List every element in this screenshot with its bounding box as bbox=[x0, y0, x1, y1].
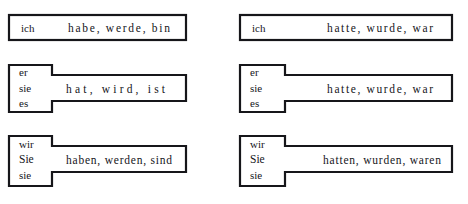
conjugation-box-left-row-1: ich habe, werde, bin bbox=[9, 15, 186, 40]
verbs-right-row-3: hatten, wurden, waren bbox=[323, 154, 441, 167]
pronoun-right-row-2-2: es bbox=[250, 97, 259, 109]
conjugation-diagram: ich habe, werde, bin er sie es hat, wird… bbox=[0, 0, 468, 204]
conjugation-box-right-row-3: wir Sie sie hatten, wurden, waren bbox=[240, 136, 452, 186]
conjugation-box-left-row-2: er sie es hat, wird, ist bbox=[9, 65, 186, 112]
pronoun-left-row-3-0: wir bbox=[19, 138, 34, 150]
pronoun-right-row-3-2: sie bbox=[250, 169, 262, 181]
pronoun-left-row-3-2: sie bbox=[19, 169, 31, 181]
pronoun-right-row-3-1: Sie bbox=[250, 153, 265, 165]
conjugation-box-right-row-1: ich hatte, wurde, war bbox=[240, 15, 452, 40]
pronoun-right-row-2-1: sie bbox=[250, 82, 262, 94]
verbs-left-row-3: haben, werden, sind bbox=[66, 154, 172, 167]
pronoun-left-row-2-0: er bbox=[19, 66, 28, 78]
pronoun-right-row-3-0: wir bbox=[250, 138, 265, 150]
conjugation-box-left-row-3: wir Sie sie haben, werden, sind bbox=[9, 136, 186, 186]
pronoun-left-row-2-1: sie bbox=[19, 82, 31, 94]
pronoun-left-row-3-1: Sie bbox=[19, 153, 34, 165]
pronoun-left-row-2-2: es bbox=[19, 97, 28, 109]
verbs-left-row-1: habe, werde, bin bbox=[68, 22, 170, 35]
pronoun-right-row-2-0: er bbox=[250, 66, 259, 78]
verbs-right-row-2: hatte, wurde, war bbox=[327, 83, 433, 96]
verbs-right-row-1: hatte, wurde, war bbox=[327, 22, 433, 35]
conjugation-box-right-row-2: er sie es hatte, wurde, war bbox=[240, 65, 452, 112]
pronoun-right-row-1-0: ich bbox=[252, 22, 266, 34]
pronoun-left-row-1-0: ich bbox=[21, 22, 35, 34]
